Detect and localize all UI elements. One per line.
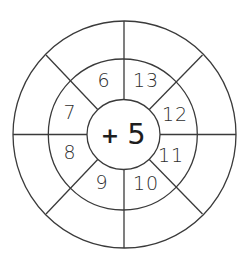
inner-number-bottom-right: 10 bbox=[133, 172, 159, 194]
inner-number-top-right: 13 bbox=[133, 69, 159, 91]
inner-number-right-upper: 12 bbox=[162, 103, 188, 125]
inner-number-left-lower: 8 bbox=[63, 141, 76, 163]
inner-number-top-left: 6 bbox=[97, 69, 110, 91]
addition-wheel: + 5 6 13 12 11 10 9 8 7 bbox=[0, 0, 245, 264]
spoke-bottom-left bbox=[46, 160, 98, 215]
center-operator: + bbox=[101, 123, 119, 148]
inner-ring bbox=[87, 100, 160, 170]
center-value: 5 bbox=[127, 117, 145, 151]
inner-number-left-upper: 7 bbox=[63, 101, 76, 123]
inner-number-right-lower: 11 bbox=[158, 144, 184, 166]
inner-number-bottom-left: 9 bbox=[95, 171, 108, 193]
